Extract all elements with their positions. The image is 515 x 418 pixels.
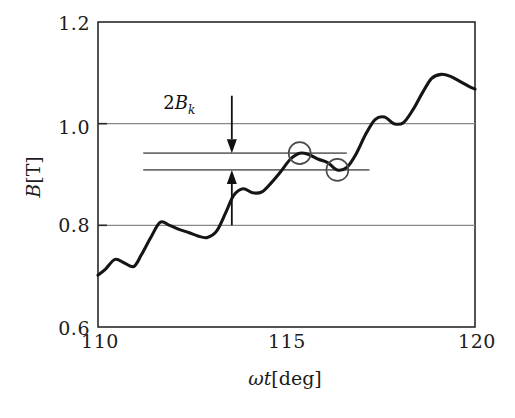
y-axis-unit: [T] (22, 156, 44, 184)
y-axis-symbol: B (22, 184, 44, 198)
x-axis-title: ωt[deg] (190, 367, 380, 389)
bk-symbol: B (175, 92, 188, 113)
x-tick-label-110: 110 (70, 330, 130, 352)
y-tick-label-1-2: 1.2 (14, 12, 90, 34)
arrow-down-head (227, 139, 237, 153)
x-axis-symbol: ωt (248, 367, 271, 389)
y-tick-marks (98, 124, 107, 226)
arrow-up-head (227, 170, 237, 184)
data-curve (98, 74, 475, 275)
plot-frame (98, 22, 475, 327)
gridlines (98, 124, 475, 226)
bk-coefficient: 2 (163, 92, 174, 113)
chart-canvas (0, 0, 515, 418)
y-axis-title: B[T] (22, 135, 44, 219)
bk-subscript: k (188, 102, 195, 116)
bk-annotation-label: 2Bk (163, 92, 195, 117)
figure-container: 1.2 1.0 0.8 0.6 110 115 120 B[T] ωt[deg]… (0, 0, 515, 418)
x-tick-label-115: 115 (257, 330, 317, 352)
data-point-markers (289, 142, 349, 181)
x-tick-label-120: 120 (447, 330, 507, 352)
x-axis-unit: [deg] (271, 367, 321, 389)
